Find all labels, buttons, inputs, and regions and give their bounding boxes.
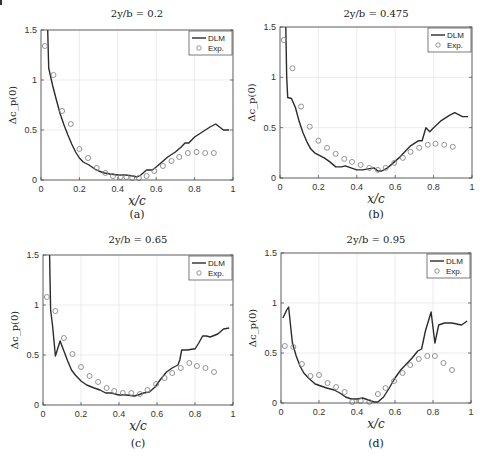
svg-text:0.5: 0.5 — [26, 350, 39, 360]
svg-text:0.6: 0.6 — [389, 182, 402, 192]
legend-dlm-label: DLM — [446, 257, 463, 266]
svg-text:1: 1 — [271, 72, 276, 82]
svg-text:1: 1 — [469, 182, 474, 192]
svg-text:0: 0 — [40, 409, 45, 419]
panel-caption: (b) — [368, 208, 384, 221]
svg-text:0: 0 — [277, 182, 282, 192]
x-axis-label: x/c — [129, 419, 147, 433]
panel-caption: (d) — [368, 437, 384, 450]
panel-d: 00.20.40.60.8100.511.5 2y/b = 0.95 (d) x… — [247, 234, 474, 450]
legend-dlm-label: DLM — [208, 34, 225, 43]
svg-text:0.2: 0.2 — [312, 182, 325, 192]
legend-exp-label: Exp. — [447, 41, 463, 50]
svg-text:0.4: 0.4 — [112, 184, 125, 194]
panel-a: 00.20.40.60.8100.511.5 2y/b = 0.2 (a) x/… — [7, 8, 236, 221]
svg-text:1.5: 1.5 — [263, 22, 276, 32]
svg-text:0.8: 0.8 — [427, 182, 440, 192]
svg-text:1: 1 — [272, 298, 277, 308]
legend-dlm-label: DLM — [447, 31, 464, 40]
dlm-series-line — [283, 307, 467, 402]
svg-text:0.2: 0.2 — [75, 409, 88, 419]
svg-text:0.6: 0.6 — [151, 409, 164, 419]
panel-title: 2y/b = 0.95 — [347, 234, 406, 245]
svg-text:0: 0 — [278, 407, 283, 417]
panel-title: 2y/b = 0.475 — [343, 8, 408, 19]
svg-text:1: 1 — [32, 75, 37, 85]
legend: DLM Exp. — [189, 256, 232, 280]
svg-text:0.8: 0.8 — [189, 409, 202, 419]
svg-text:0.5: 0.5 — [264, 348, 277, 358]
svg-text:1.5: 1.5 — [264, 248, 277, 258]
svg-text:0: 0 — [38, 184, 43, 194]
panel-b: 00.20.40.60.8100.511.5 2y/b = 0.475 (b) … — [246, 8, 475, 221]
panel-caption: (c) — [131, 437, 146, 450]
y-axis-label: Δc_p(0) — [246, 83, 258, 121]
svg-text:0.8: 0.8 — [427, 407, 440, 417]
svg-text:0: 0 — [271, 173, 276, 183]
svg-text:0.5: 0.5 — [24, 125, 37, 135]
panel-title: 2y/b = 0.65 — [109, 234, 168, 245]
x-axis-label: x/c — [367, 417, 385, 431]
y-axis-label: Δc_p(0) — [247, 309, 259, 347]
y-axis-label: Δc_p(0) — [7, 86, 19, 124]
legend-exp-label: Exp. — [208, 269, 224, 278]
exp-series-markers — [42, 44, 216, 181]
x-axis-label: x/c — [367, 192, 385, 206]
svg-text:0.5: 0.5 — [263, 123, 276, 133]
svg-text:0.6: 0.6 — [150, 184, 163, 194]
svg-text:0.8: 0.8 — [188, 184, 201, 194]
svg-text:1: 1 — [230, 184, 235, 194]
svg-text:0: 0 — [34, 400, 39, 410]
x-axis-label: x/c — [128, 194, 146, 208]
legend: DLM Exp. — [427, 254, 470, 278]
svg-text:1.5: 1.5 — [24, 25, 37, 35]
svg-text:0.6: 0.6 — [389, 407, 402, 417]
svg-text:0: 0 — [272, 398, 277, 408]
exp-series-markers — [281, 38, 455, 173]
exp-series-markers — [44, 295, 216, 397]
svg-text:0.2: 0.2 — [313, 407, 326, 417]
svg-text:1.5: 1.5 — [26, 250, 39, 260]
legend-exp-label: Exp. — [446, 267, 462, 276]
legend-dlm-label: DLM — [208, 259, 225, 268]
svg-text:0.4: 0.4 — [351, 407, 364, 417]
figure: 00.20.40.60.8100.511.5 2y/b = 0.2 (a) x/… — [0, 0, 486, 465]
svg-text:1: 1 — [34, 300, 39, 310]
svg-text:0: 0 — [32, 175, 37, 185]
panel-caption: (a) — [129, 208, 144, 221]
panel-c: 00.20.40.60.8100.511.5 2y/b = 0.65 (c) x… — [9, 234, 236, 450]
svg-text:0.4: 0.4 — [113, 409, 126, 419]
legend: DLM Exp. — [428, 28, 471, 52]
legend: DLM Exp. — [189, 31, 232, 55]
legend-exp-label: Exp. — [208, 44, 224, 53]
svg-text:1: 1 — [230, 409, 235, 419]
y-axis-label: Δc_p(0) — [9, 311, 21, 349]
corner-mark — [0, 0, 2, 5]
svg-text:1: 1 — [468, 407, 473, 417]
panel-title: 2y/b = 0.2 — [111, 8, 163, 19]
svg-text:0.2: 0.2 — [73, 184, 86, 194]
svg-text:0.4: 0.4 — [351, 182, 364, 192]
